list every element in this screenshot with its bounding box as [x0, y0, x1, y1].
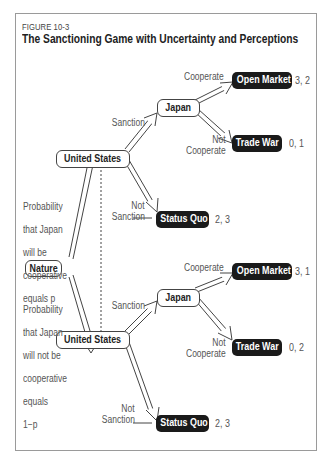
label-not-sanction-top: NotSanction [95, 200, 145, 222]
payoff-status-quo-bottom: 2, 3 [215, 417, 233, 429]
node-japan-top: Japan [157, 99, 200, 117]
outcome-open-market-top: Open Market [232, 72, 292, 89]
label-sanction-top: Sanction [100, 117, 145, 128]
node-japan-bottom: Japan [157, 289, 200, 307]
outcome-open-market-bottom: Open Market [232, 263, 292, 280]
outcome-status-quo-bottom: Status Quo [156, 415, 209, 432]
outcome-status-quo-top: Status Quo [156, 211, 209, 228]
label-cooperate-bottom: Cooperate [170, 262, 224, 273]
payoff-open-market-bottom: 3, 1 [295, 265, 313, 277]
label-not-cooperate-bottom: NotCooperate [170, 337, 226, 359]
outcome-trade-war-bottom: Trade War [232, 339, 282, 356]
probability-not-cooperative: Probability that Japan will not be coope… [23, 292, 75, 430]
outcome-trade-war-top: Trade War [232, 135, 282, 152]
label-not-cooperate-top: NotCooperate [170, 134, 226, 156]
probability-cooperative: Probability that Japan will be cooperati… [23, 189, 75, 304]
node-united-states-top: United States [56, 150, 130, 168]
arrow-japan-bottom-to-trade-war-bottom [195, 297, 232, 340]
payoff-status-quo-top: 2, 3 [215, 213, 233, 225]
payoff-open-market-top: 3, 2 [295, 74, 313, 86]
payoff-trade-war-top: 0, 1 [289, 137, 307, 149]
payoff-trade-war-bottom: 0, 2 [289, 341, 307, 353]
label-not-sanction-bottom: NotSanction [85, 403, 135, 425]
arrow-japan-bottom-to-open-market-bottom [195, 273, 233, 292]
arrow-japan-top-to-open-market-top [195, 82, 233, 104]
label-cooperate-top: Cooperate [170, 71, 224, 82]
label-sanction-bottom: Sanction [100, 300, 145, 311]
